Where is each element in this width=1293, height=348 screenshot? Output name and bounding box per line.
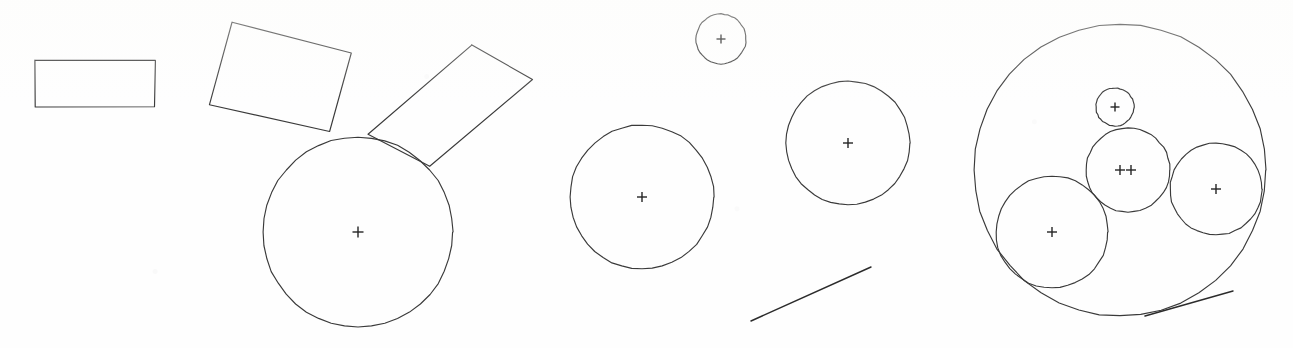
line-middle-diagonal	[751, 267, 871, 321]
cross-marker-circle-middle-right	[843, 138, 853, 148]
cross-marker-circle-right-small-top	[1111, 103, 1120, 112]
sketch-surface	[0, 0, 1293, 348]
cross-marker-circle-right-east	[1211, 184, 1221, 194]
rectangles-layer	[35, 22, 533, 166]
rectangle-tilted-upper-right	[368, 45, 533, 167]
cross-marker-circle-right-lower-left	[1047, 227, 1057, 237]
drawing-canvas	[0, 0, 1293, 348]
rectangle-axis-aligned	[35, 60, 155, 107]
line-right-diagonal	[1145, 291, 1233, 316]
cross-marker-circle-middle-small-top	[717, 35, 726, 44]
lines-layer	[751, 267, 1233, 321]
rectangle-tilted-upper-left	[209, 22, 351, 132]
cross-marker-circle-right-center-a	[1115, 165, 1125, 175]
cross-marker-circle-right-center-b	[1126, 165, 1136, 175]
cross-marker-circle-left-large	[353, 227, 364, 238]
cross-marker-circle-middle-left	[637, 192, 647, 202]
